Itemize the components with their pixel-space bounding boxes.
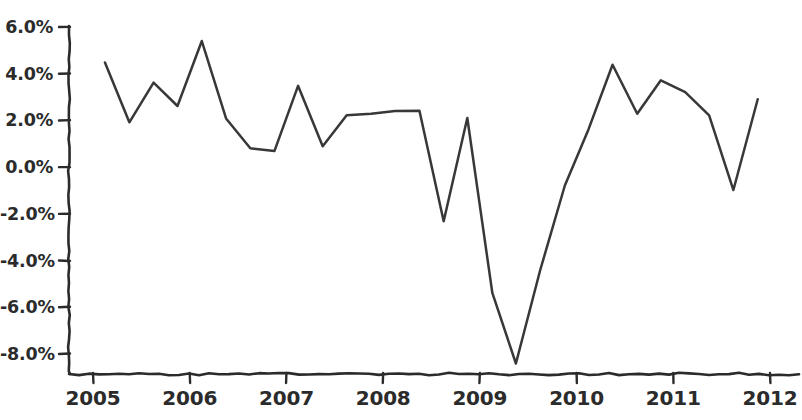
x-tick-label: 2012 [743, 386, 798, 410]
x-axis [69, 373, 799, 376]
data-series-line [105, 41, 758, 363]
y-tick-label: 4.0% [0, 64, 53, 84]
x-tick-label: 2009 [452, 386, 507, 410]
y-tick-label: -8.0% [0, 344, 53, 364]
y-tick-label: 6.0% [0, 17, 53, 37]
x-tick-label: 2006 [162, 386, 217, 410]
y-tick-label: -6.0% [0, 297, 53, 317]
x-tick-label: 2007 [259, 386, 314, 410]
y-tick-label: 0.0% [0, 157, 53, 177]
y-tick-label: 2.0% [0, 110, 53, 130]
x-tick-label: 2010 [549, 386, 604, 410]
y-tick-label: -2.0% [0, 204, 53, 224]
x-tick-label: 2008 [356, 386, 411, 410]
x-tick-label: 2011 [646, 386, 701, 410]
x-tick-label: 2005 [66, 386, 121, 410]
y-axis [68, 26, 70, 374]
y-tick-label: -4.0% [0, 251, 53, 271]
line-chart: 6.0%4.0%2.0%0.0%-2.0%-4.0%-6.0%-8.0% 200… [0, 0, 802, 420]
chart-plot-area [0, 0, 802, 420]
